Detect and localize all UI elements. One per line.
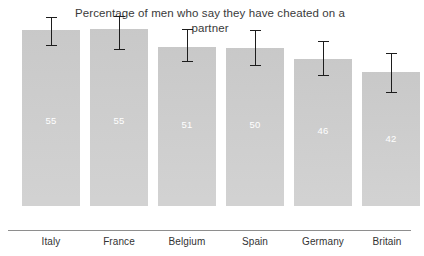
category-label-france: France xyxy=(80,236,158,247)
error-cap-top-italy xyxy=(46,17,57,19)
error-cap-bottom-britain xyxy=(386,92,397,94)
error-cap-top-britain xyxy=(386,53,397,55)
category-label-belgium: Belgium xyxy=(148,236,226,247)
error-bar-germany xyxy=(323,41,324,75)
category-label-spain: Spain xyxy=(216,236,294,247)
bar-value-britain: 42 xyxy=(362,133,420,144)
bar-value-france: 55 xyxy=(90,115,148,126)
error-cap-top-spain xyxy=(250,30,261,32)
error-bar-belgium xyxy=(187,29,188,61)
error-cap-bottom-italy xyxy=(46,45,57,47)
category-label-britain: Britain xyxy=(348,236,424,247)
category-axis-line xyxy=(8,230,411,231)
bar-value-italy: 55 xyxy=(22,115,80,126)
error-cap-top-belgium xyxy=(182,29,193,31)
bar-value-belgium: 51 xyxy=(158,119,216,130)
error-cap-top-germany xyxy=(318,41,329,43)
error-bar-italy xyxy=(51,17,52,45)
error-cap-top-france xyxy=(114,16,125,18)
error-bar-france xyxy=(119,16,120,49)
plot-area: 55 55 51 50 xyxy=(0,0,419,231)
bar-value-spain: 50 xyxy=(226,119,284,130)
bar-value-germany: 46 xyxy=(294,125,352,136)
error-cap-bottom-france xyxy=(114,49,125,51)
error-bar-britain xyxy=(391,53,392,92)
error-cap-bottom-belgium xyxy=(182,61,193,63)
error-cap-bottom-spain xyxy=(250,65,261,67)
error-bar-spain xyxy=(255,30,256,65)
error-cap-bottom-germany xyxy=(318,75,329,77)
category-label-italy: Italy xyxy=(12,236,90,247)
